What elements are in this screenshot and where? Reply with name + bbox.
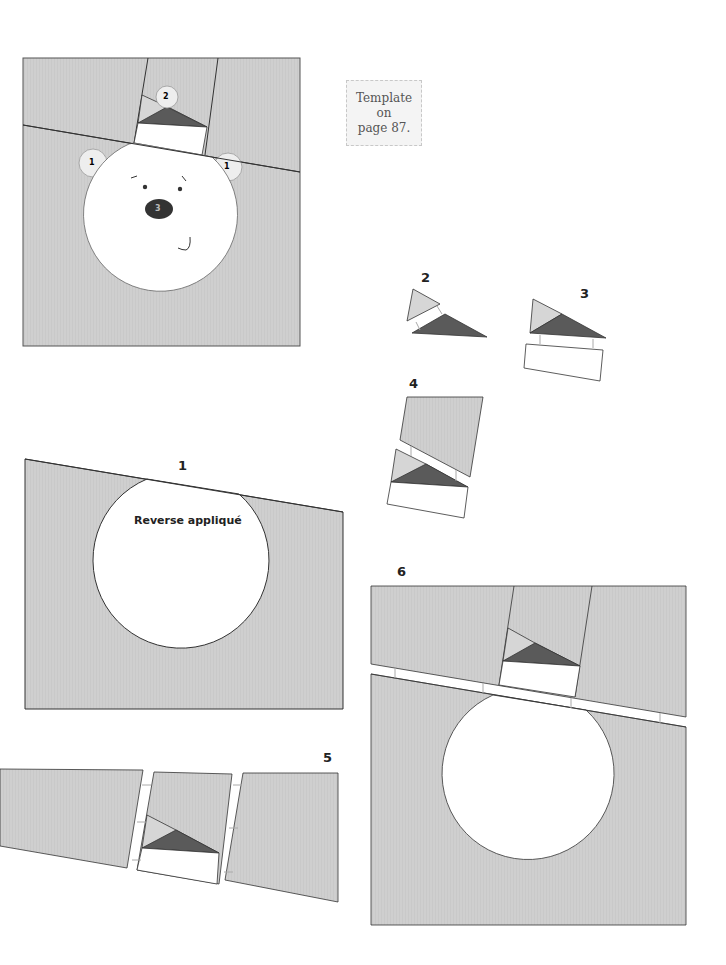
template-note-line1: Template on <box>351 91 417 121</box>
step-5-diagram <box>0 769 338 902</box>
nose-label: 3 <box>155 204 161 213</box>
step-4-diagram <box>387 397 483 518</box>
step-6-number: 6 <box>397 564 406 579</box>
right-eye <box>178 187 182 191</box>
step-3-number: 3 <box>580 286 589 301</box>
finished-bear-block <box>23 58 300 346</box>
step-2-diagram <box>407 289 487 337</box>
hat-label: 2 <box>163 92 169 101</box>
left-ear-label: 1 <box>89 158 95 167</box>
left-eye <box>143 185 147 189</box>
template-note: Template on page 87. <box>346 80 422 146</box>
step-1-diagram <box>25 459 343 709</box>
step-5-number: 5 <box>323 750 332 765</box>
reverse-applique-label: Reverse appliqué <box>134 514 242 527</box>
step-4-number: 4 <box>409 376 418 391</box>
step-6-diagram <box>371 586 686 925</box>
step-2-number: 2 <box>421 270 430 285</box>
template-note-line2: page 87. <box>351 121 417 136</box>
step-1-number: 1 <box>178 458 187 473</box>
step-3-diagram <box>524 299 606 381</box>
right-ear-label: 1 <box>224 162 230 171</box>
